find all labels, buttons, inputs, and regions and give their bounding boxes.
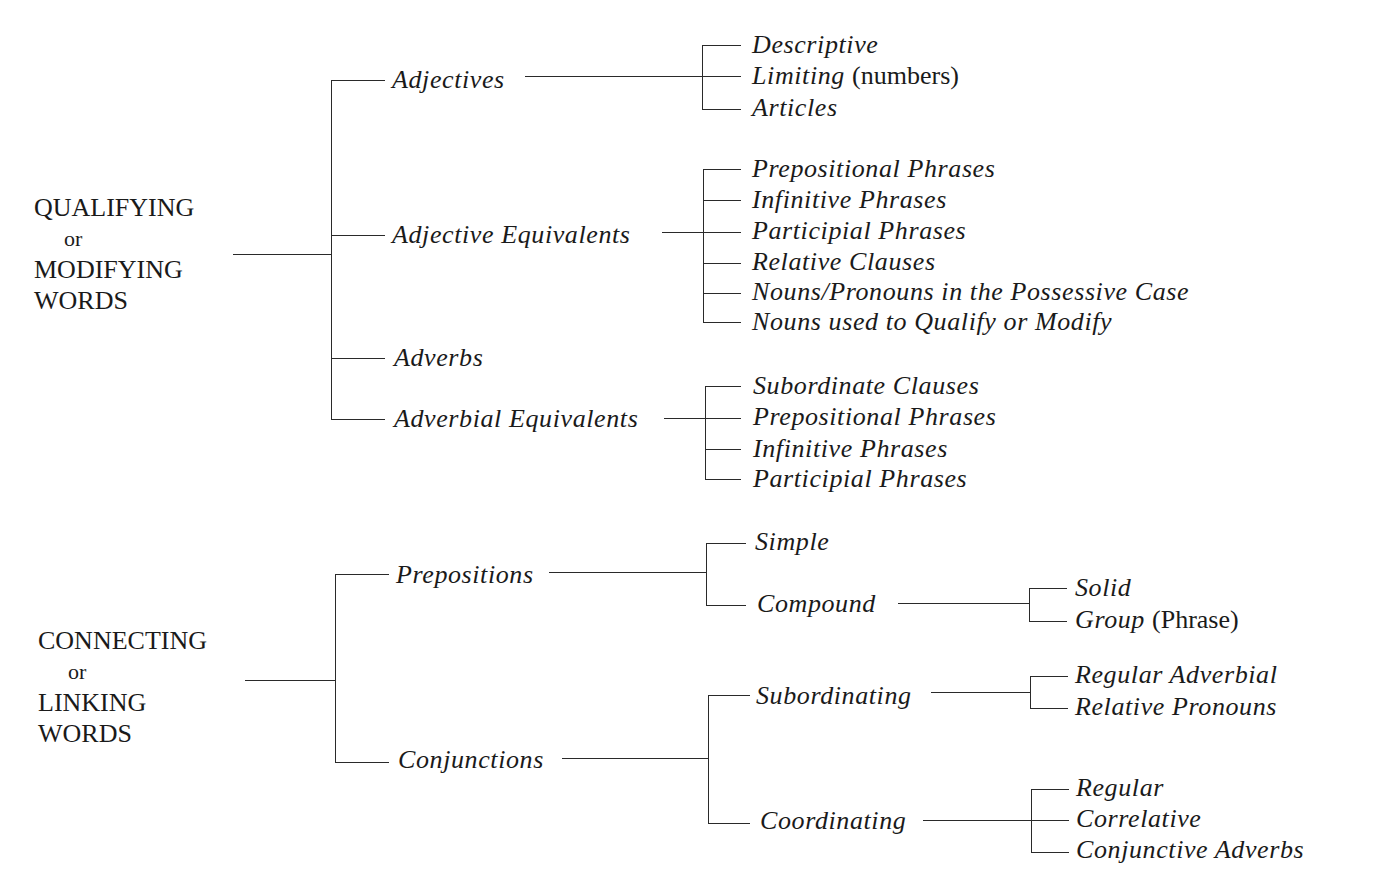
connector-line: [335, 762, 389, 763]
connector-line: [1031, 852, 1069, 853]
leaf-limiting-note: (numbers): [852, 61, 959, 90]
leaf-conjunctive-adverbs: Conjunctive Adverbs: [1076, 835, 1304, 865]
connector-line: [1029, 621, 1067, 622]
connector-line: [1030, 676, 1068, 677]
node-conjunctions: Conjunctions: [398, 745, 544, 775]
connector-line: [706, 543, 746, 544]
bracket-line: [706, 543, 707, 606]
connector-line: [702, 45, 741, 46]
connector-line: [702, 109, 741, 110]
connector-line: [245, 680, 336, 681]
root-line-1: QUALIFYING: [34, 192, 194, 223]
root-line-2: or: [38, 656, 207, 687]
leaf-articles: Articles: [752, 93, 838, 123]
connector-line: [662, 232, 741, 233]
connector-line: [708, 695, 750, 696]
node-subordinating: Subordinating: [756, 681, 912, 711]
connector-line: [525, 76, 741, 77]
bracket-line: [708, 695, 709, 824]
node-compound: Compound: [757, 589, 876, 619]
connector-line: [703, 169, 741, 170]
connector-line: [331, 235, 385, 236]
connector-line: [549, 572, 707, 573]
connector-line: [705, 386, 741, 387]
leaf-participial-phrases-2: Participial Phrases: [753, 464, 967, 494]
leaf-infinitive-phrases: Infinitive Phrases: [752, 185, 947, 215]
root-line-3: LINKING: [38, 687, 207, 718]
leaf-nouns-pronouns-possessive: Nouns/Pronouns in the Possessive Case: [752, 277, 1189, 307]
node-adjectives: Adjectives: [392, 65, 505, 95]
node-adverbs: Adverbs: [394, 343, 483, 373]
connector-line: [664, 418, 741, 419]
bracket-line: [1029, 588, 1030, 622]
connector-line: [233, 254, 332, 255]
node-adverbial-equivalents: Adverbial Equivalents: [394, 404, 638, 434]
root-line-4: WORDS: [38, 718, 207, 749]
bracket-line: [1030, 676, 1031, 709]
connector-line: [331, 80, 385, 81]
leaf-prepositional-phrases: Prepositional Phrases: [752, 154, 995, 184]
bracket-line: [703, 169, 704, 323]
connector-line: [703, 263, 741, 264]
connector-line: [703, 322, 741, 323]
bracket-line: [702, 45, 703, 110]
connector-line: [335, 574, 389, 575]
root-qualifying-modifying-words: QUALIFYING or MODIFYING WORDS: [34, 192, 194, 316]
leaf-solid: Solid: [1075, 573, 1131, 603]
connector-line: [705, 479, 741, 480]
connector-line: [703, 200, 741, 201]
bracket-line: [331, 80, 332, 420]
bracket-line: [705, 386, 706, 480]
bracket-line: [335, 574, 336, 763]
node-prepositions: Prepositions: [396, 560, 534, 590]
node-adjective-equivalents: Adjective Equivalents: [392, 220, 631, 250]
leaf-group-label: Group: [1075, 605, 1145, 634]
connector-line: [562, 758, 709, 759]
node-simple: Simple: [755, 527, 829, 557]
connector-line: [706, 605, 746, 606]
connector-line: [703, 293, 741, 294]
bracket-line: [1031, 789, 1032, 853]
connector-line: [1030, 708, 1068, 709]
connector-line: [1029, 588, 1067, 589]
leaf-group: Group (Phrase): [1075, 605, 1239, 635]
connector-line: [931, 692, 1031, 693]
node-coordinating: Coordinating: [760, 806, 906, 836]
leaf-limiting: Limiting (numbers): [752, 61, 959, 91]
connector-line: [923, 820, 1069, 821]
leaf-relative-pronouns: Relative Pronouns: [1075, 692, 1277, 722]
leaf-regular-adverbial: Regular Adverbial: [1075, 660, 1278, 690]
connector-line: [708, 823, 750, 824]
connector-line: [1031, 789, 1069, 790]
connector-line: [331, 358, 385, 359]
leaf-participial-phrases: Participial Phrases: [752, 216, 966, 246]
root-line-3: MODIFYING: [34, 254, 194, 285]
leaf-infinitive-phrases-2: Infinitive Phrases: [753, 434, 948, 464]
leaf-subordinate-clauses: Subordinate Clauses: [753, 371, 979, 401]
root-connecting-linking-words: CONNECTING or LINKING WORDS: [38, 625, 207, 749]
leaf-descriptive: Descriptive: [752, 30, 878, 60]
leaf-correlative: Correlative: [1076, 804, 1202, 834]
connector-line: [705, 449, 741, 450]
connector-line: [331, 419, 385, 420]
root-line-4: WORDS: [34, 285, 194, 316]
leaf-prepositional-phrases-2: Prepositional Phrases: [753, 402, 996, 432]
root-line-1: CONNECTING: [38, 625, 207, 656]
leaf-nouns-qualify-modify: Nouns used to Qualify or Modify: [752, 307, 1112, 337]
leaf-limiting-label: Limiting: [752, 61, 845, 90]
leaf-regular: Regular: [1076, 773, 1164, 803]
leaf-group-note: (Phrase): [1152, 605, 1239, 634]
root-line-2: or: [34, 223, 194, 254]
leaf-relative-clauses: Relative Clauses: [752, 247, 936, 277]
connector-line: [898, 603, 1030, 604]
